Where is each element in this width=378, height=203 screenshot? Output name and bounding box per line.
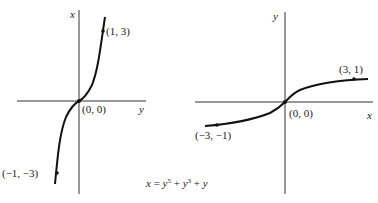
right-chart: y x (3, 1) (0, 0) (−3, −1) [195,10,373,194]
caption-plus2: + [191,177,203,189]
right-point-bottom [215,123,219,127]
caption-eq: = [151,177,163,189]
left-vertical-axis-label: x [69,8,75,20]
right-point-top-label: (3, 1) [339,63,363,76]
right-horizontal-axis-label: x [366,109,372,121]
right-point-origin-label: (0, 0) [289,107,313,120]
right-point-origin [283,100,287,104]
figure: x y (1, 3) (0, 0) (−1, −3) y x (3, 1) (0… [0,0,378,203]
left-point-top [101,29,105,33]
caption-plus1: + [171,177,183,189]
left-point-bottom-label: (−1, −3) [2,167,39,180]
right-point-bottom-label: (−3, −1) [195,129,232,142]
caption-term3: y [202,177,208,189]
left-point-origin-label: (0, 0) [82,103,106,116]
left-point-top-label: (1, 3) [106,25,130,38]
left-chart: x y (1, 3) (0, 0) (−1, −3) [2,8,146,194]
left-point-origin [77,99,81,103]
left-horizontal-axis-label: y [138,103,144,115]
right-vertical-axis-label: y [272,10,278,22]
equation-caption: x = y5 + y3 + y [145,177,208,189]
right-point-top [352,77,356,81]
left-point-bottom [55,171,59,175]
